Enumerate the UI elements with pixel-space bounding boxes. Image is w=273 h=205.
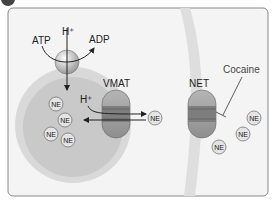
- h-plus-label-pump: H⁺: [62, 26, 74, 37]
- svg-text:NE: NE: [249, 115, 259, 122]
- svg-text:NE: NE: [238, 131, 248, 138]
- cocaine-label: Cocaine: [223, 64, 260, 75]
- ne-molecule: NE: [236, 127, 250, 141]
- panel-badge: [1, 0, 15, 6]
- ne-molecule: NE: [148, 111, 162, 125]
- ne-molecule: NE: [247, 111, 261, 125]
- atp-label: ATP: [32, 35, 51, 46]
- svg-text:NE: NE: [46, 131, 56, 138]
- net-transporter: [188, 90, 216, 138]
- adp-label: ADP: [89, 34, 110, 45]
- ne-molecule: NE: [44, 127, 58, 141]
- svg-text:NE: NE: [60, 117, 70, 124]
- diagram-canvas: ATP H⁺ ADP VMAT H⁺ NE NE NE NE NE NET Co…: [0, 0, 273, 205]
- svg-text:NE: NE: [150, 115, 160, 122]
- ne-molecule: NE: [212, 140, 226, 154]
- ne-molecule: NE: [58, 113, 72, 127]
- h-plus-label-vmat: H⁺: [80, 94, 92, 105]
- svg-text:NE: NE: [63, 137, 73, 144]
- svg-text:NE: NE: [51, 101, 61, 108]
- ne-molecule: NE: [49, 97, 63, 111]
- ne-molecule: NE: [61, 133, 75, 147]
- vmat-label: VMAT: [103, 78, 130, 89]
- net-label: NET: [189, 78, 209, 89]
- svg-text:NE: NE: [214, 144, 224, 151]
